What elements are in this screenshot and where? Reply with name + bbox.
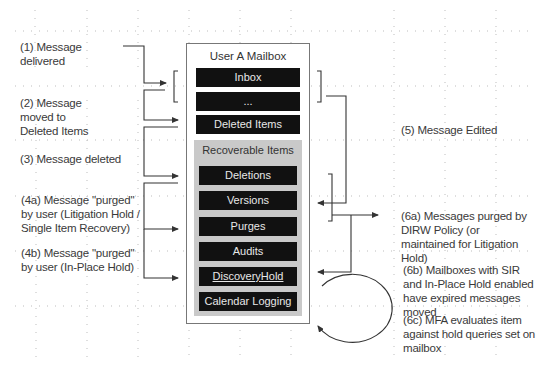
bracket-right xyxy=(317,71,321,102)
arrow-step-6c-loop xyxy=(318,274,392,342)
bracket-left xyxy=(174,71,178,102)
arrow-step-4b xyxy=(144,229,178,278)
arrow-step-2 xyxy=(144,90,178,120)
bracket-deletions-versions xyxy=(328,174,332,221)
flow-arrows xyxy=(0,0,541,368)
arrow-step-6b xyxy=(318,215,351,272)
arrow-step-1 xyxy=(123,46,166,83)
arrow-step-4a xyxy=(144,183,178,229)
arrow-step-3 xyxy=(144,127,178,176)
